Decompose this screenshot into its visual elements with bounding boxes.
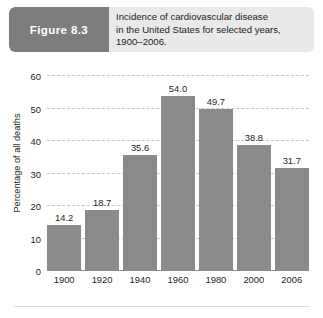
- y-axis-tick-label: 60: [31, 71, 41, 82]
- bar: [275, 168, 309, 271]
- x-axis-tick-label: 1920: [85, 274, 119, 285]
- bar-series: 14.218.735.654.049.738.831.7: [47, 76, 309, 271]
- figure-caption-line-1: Incidence of cardiovascular disease: [116, 11, 312, 24]
- y-axis-tick-label: 10: [31, 233, 41, 244]
- bar-group: 14.2: [47, 76, 81, 271]
- bar: [123, 155, 157, 271]
- bar-group: 49.7: [199, 76, 233, 271]
- x-axis-labels: 1900192019401960198020002006: [47, 274, 309, 285]
- bar: [237, 145, 271, 271]
- bottom-divider: [14, 306, 310, 307]
- bar-group: 38.8: [237, 76, 271, 271]
- figure-caption-line-2: in the United States for selected years,: [116, 24, 312, 37]
- figure-header: Figure 8.3 Incidence of cardiovascular d…: [9, 7, 314, 52]
- y-axis-tick-label: 20: [31, 201, 41, 212]
- x-axis-tick-label: 1980: [199, 274, 233, 285]
- x-axis-tick-label: 2006: [275, 274, 309, 285]
- x-axis-tick-label: 1940: [123, 274, 157, 285]
- y-axis-tick-label: 40: [31, 136, 41, 147]
- plot-area: 0102030405060 14.218.735.654.049.738.831…: [47, 76, 309, 271]
- bar-group: 31.7: [275, 76, 309, 271]
- bar-value-label: 18.7: [93, 197, 111, 208]
- bar-value-label: 54.0: [169, 83, 187, 94]
- figure-number-label: Figure 8.3: [30, 24, 88, 36]
- bar: [85, 210, 119, 271]
- x-axis-tick-label: 2000: [237, 274, 271, 285]
- bar: [47, 225, 81, 271]
- bar-group: 54.0: [161, 76, 195, 271]
- bar-group: 35.6: [123, 76, 157, 271]
- figure-caption: Incidence of cardiovascular disease in t…: [116, 11, 312, 49]
- bar-value-label: 38.8: [245, 132, 263, 143]
- bar-value-label: 35.6: [131, 142, 149, 153]
- bar-value-label: 14.2: [55, 212, 73, 223]
- bar-value-label: 49.7: [207, 96, 225, 107]
- y-axis-title: Percentage of all deaths: [12, 88, 22, 238]
- x-axis-tick-label: 1960: [161, 274, 195, 285]
- bar: [161, 96, 195, 272]
- figure-caption-line-3: 1900–2006.: [116, 36, 312, 49]
- bar-group: 18.7: [85, 76, 119, 271]
- bar-value-label: 31.7: [283, 155, 301, 166]
- figure-number-tag: Figure 8.3: [9, 7, 109, 52]
- y-axis-tick-label: 30: [31, 168, 41, 179]
- x-axis-tick-label: 1900: [47, 274, 81, 285]
- y-axis-tick-label: 50: [31, 103, 41, 114]
- chart-panel: Percentage of all deaths 0102030405060 1…: [0, 58, 323, 301]
- figure-block: Figure 8.3 Incidence of cardiovascular d…: [0, 0, 323, 318]
- bar: [199, 109, 233, 271]
- y-axis-tick-label: 0: [36, 266, 41, 277]
